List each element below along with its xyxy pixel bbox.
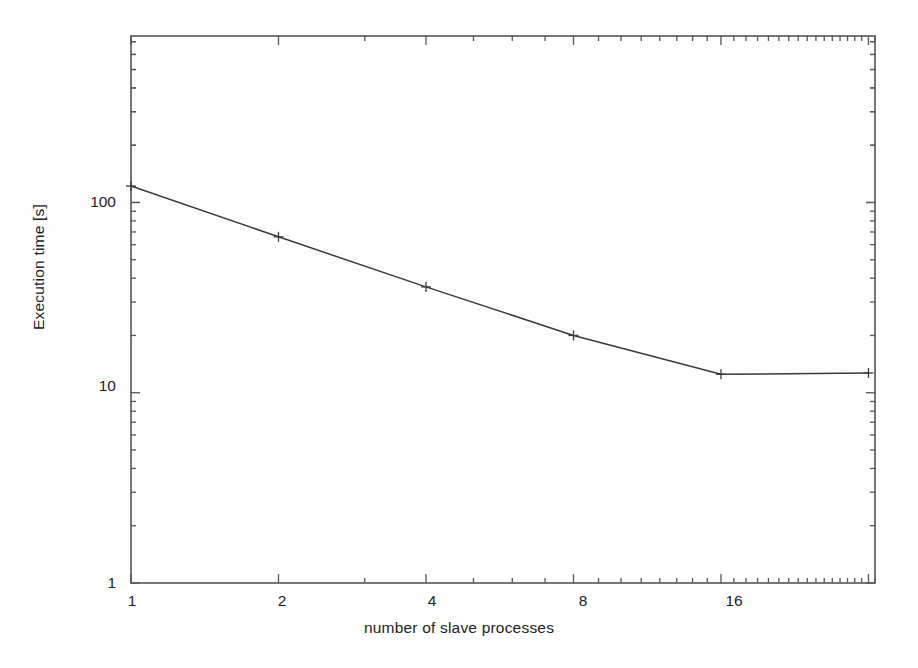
data-point-markers <box>126 181 873 379</box>
x-tick-label-2: 2 <box>252 592 312 610</box>
x-tick-label-8: 8 <box>553 592 613 610</box>
tick-marks <box>131 36 875 583</box>
y-tick-label-10: 10 <box>60 377 116 395</box>
y-axis-label: Execution time [s] <box>30 204 48 330</box>
axis-frame <box>131 36 875 583</box>
x-axis-label: number of slave processes <box>0 619 918 637</box>
data-series-line <box>131 186 868 374</box>
plot-area <box>0 0 918 668</box>
x-tick-label-4: 4 <box>402 592 462 610</box>
x-tick-label-16: 16 <box>704 592 764 610</box>
y-tick-label-100: 100 <box>60 193 116 211</box>
chart-figure: Execution time [s] number of slave proce… <box>0 0 918 668</box>
x-tick-label-1: 1 <box>102 592 162 610</box>
y-tick-label-1: 1 <box>60 574 116 592</box>
